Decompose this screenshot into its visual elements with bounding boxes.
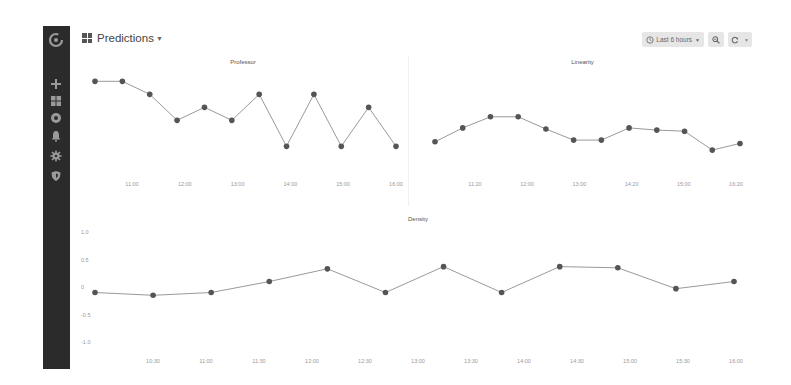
x-axis-tick: 14:00 [517,358,531,364]
y-axis-tick: -0.5 [81,312,90,318]
dashboard-title: Predictions [97,32,154,44]
data-point[interactable] [338,144,344,150]
data-point[interactable] [515,114,521,120]
x-axis-tick: 16:00 [729,358,743,364]
data-point[interactable] [284,144,290,150]
data-point[interactable] [325,266,331,272]
data-point[interactable] [92,79,98,85]
data-point[interactable] [174,118,180,124]
x-axis-tick: 11:20 [468,181,481,187]
x-axis-tick: 13:00 [411,358,425,364]
data-point[interactable] [229,118,235,124]
professor-line-chart[interactable]: 11:0012:0013:0014:0015:0016:00 [78,54,408,214]
x-axis-tick: 14:20 [625,181,639,187]
data-point[interactable] [626,125,632,131]
time-range-label: Last 6 hours [656,36,692,43]
dashboard-main: Predictions ▼ Last 6 hours ▼ ▼ Professor… [70,26,760,369]
data-point[interactable] [147,92,153,98]
x-axis-tick: 15:00 [677,181,691,187]
dashboard-navbar: Predictions ▼ Last 6 hours ▼ ▼ [70,26,760,52]
data-point[interactable] [208,290,214,296]
bell-icon[interactable] [49,129,63,143]
x-axis-tick: 12:30 [358,358,372,364]
data-point[interactable] [731,279,737,285]
x-axis-tick: 12:00 [178,181,192,187]
x-axis-tick: 16:00 [389,181,403,187]
zoom-out-button[interactable] [708,32,724,47]
time-range-caret-icon: ▼ [695,37,700,43]
x-axis-tick: 13:30 [464,358,478,364]
panel-professor: Professor 11:0012:0013:0014:0015:0016:00 [78,54,408,210]
refresh-icon[interactable] [731,36,739,44]
density-line-chart[interactable]: 10:3011:0011:3012:0012:3013:0013:3014:00… [78,211,758,369]
x-axis-tick: 16:20 [729,181,743,187]
data-point[interactable] [441,264,447,270]
data-point[interactable] [256,92,262,98]
y-axis-tick: 0.5 [81,257,89,263]
dashboards-icon[interactable] [49,94,63,108]
data-point[interactable] [599,137,605,143]
grafana-logo-icon[interactable] [48,32,64,48]
data-point[interactable] [543,126,549,132]
zoom-out-icon [712,36,720,44]
plus-icon[interactable] [49,77,63,91]
y-axis-tick: 0 [81,284,84,290]
data-point[interactable] [499,290,505,296]
gear-icon[interactable] [49,149,63,163]
data-point[interactable] [150,292,156,298]
data-point[interactable] [654,127,660,133]
data-point[interactable] [460,125,466,131]
x-axis-tick: 13:00 [231,181,245,187]
clock-icon [646,36,654,44]
sidebar [43,26,70,369]
x-axis-tick: 12:00 [305,358,319,364]
x-axis-tick: 13:00 [573,181,587,187]
data-point[interactable] [432,139,438,145]
shield-icon[interactable] [49,169,63,183]
data-point[interactable] [120,79,126,85]
data-point[interactable] [266,279,272,285]
data-point[interactable] [571,137,577,143]
data-point[interactable] [202,105,208,111]
x-axis-tick: 11:00 [199,358,212,364]
data-point[interactable] [311,92,317,98]
x-axis-tick: 11:00 [125,181,138,187]
x-axis-tick: 11:30 [252,358,265,364]
x-axis-tick: 14:00 [284,181,298,187]
y-axis-tick: 1.0 [81,229,89,235]
compass-icon[interactable] [49,111,63,125]
panel-linearity: Linearity 11:2012:0013:0014:2015:0016:20 [410,54,755,210]
data-point[interactable] [366,105,372,111]
dashboard-grid-icon [82,33,92,43]
chevron-down-icon: ▼ [156,35,163,42]
x-axis-tick: 12:00 [520,181,534,187]
x-axis-tick: 10:30 [146,358,160,364]
time-range-picker[interactable]: Last 6 hours ▼ [642,32,704,47]
data-point[interactable] [682,128,688,134]
panel-divider [408,56,409,206]
dashboard-toolbar: Last 6 hours ▼ ▼ [642,32,752,47]
data-point[interactable] [737,141,743,147]
series-line [435,117,740,150]
data-point[interactable] [383,290,389,296]
dashboard-title-dropdown[interactable]: Predictions ▼ [82,32,163,44]
data-point[interactable] [393,144,399,150]
series-line [95,267,734,296]
data-point[interactable] [615,265,621,271]
data-point[interactable] [557,264,563,270]
data-point[interactable] [488,114,494,120]
data-point[interactable] [673,286,679,292]
series-line [95,81,396,146]
x-axis-tick: 15:30 [676,358,690,364]
chevron-down-icon[interactable]: ▼ [744,37,749,43]
refresh-button-group: ▼ [728,32,752,47]
linearity-line-chart[interactable]: 11:2012:0013:0014:2015:0016:20 [410,54,755,214]
y-axis-tick: -1.0 [81,339,90,345]
data-point[interactable] [92,290,98,296]
x-axis-tick: 15:00 [336,181,350,187]
data-point[interactable] [709,147,715,153]
x-axis-tick: 14:30 [570,358,584,364]
panel-density: Density 10:3011:0011:3012:0012:3013:0013… [78,211,758,369]
x-axis-tick: 15:00 [623,358,637,364]
